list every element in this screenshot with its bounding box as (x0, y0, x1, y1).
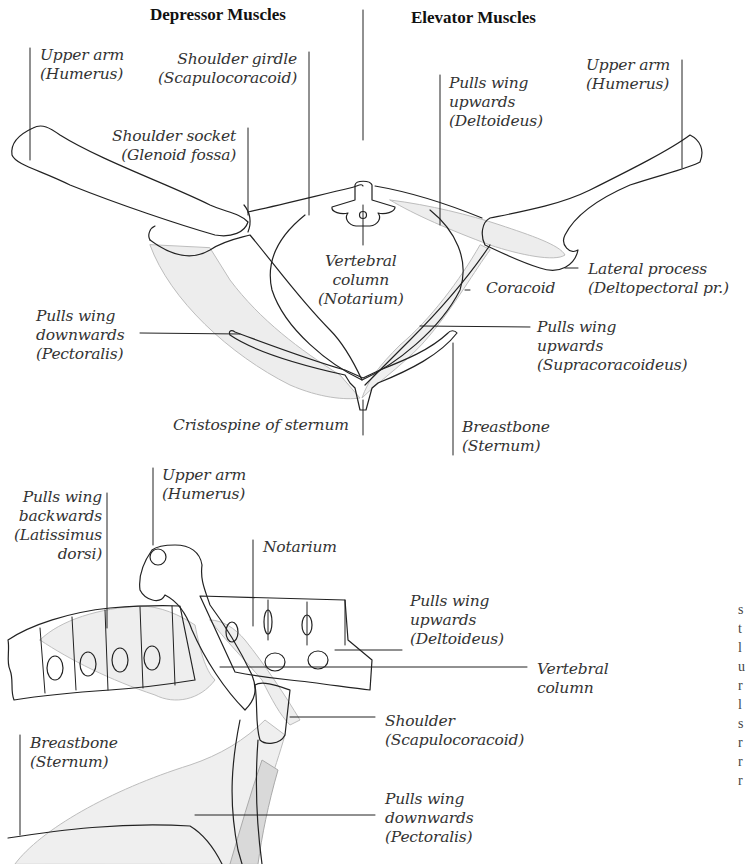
label-pulls-up-supracoracoideus: Pulls wing upwards (Supracoracoideus) (537, 318, 687, 375)
label-pulls-down-pectoralis: Pulls wing downwards (Pectoralis) (36, 307, 125, 364)
header-depressor-muscles: Depressor Muscles (150, 5, 286, 25)
label-shoulder-socket: Shoulder socket (Glenoid fossa) (112, 127, 236, 165)
glenoid-left (149, 205, 250, 240)
notarium-side (200, 596, 372, 690)
label-breastbone-front: Breastbone (Sternum) (462, 418, 550, 456)
label-vertebral-column-side: Vertebral column (537, 660, 609, 698)
deltoideus-muscle-side (210, 620, 300, 725)
label-upper-arm-right: Upper arm (Humerus) (586, 56, 670, 94)
label-lateral-process: Lateral process (Deltopectoral pr.) (588, 260, 729, 298)
label-pulls-up-deltoideus: Pulls wing upwards (Deltoideus) (449, 74, 543, 131)
humeral-head (150, 549, 166, 565)
header-elevator-muscles: Elevator Muscles (411, 8, 536, 28)
label-vertebral-column-notarium: Vertebral column (Notarium) (318, 252, 404, 309)
label-upper-arm-left: Upper arm (Humerus) (40, 46, 124, 84)
label-pulls-back-latissimus: Pulls wing backwards (Latissimus dorsi) (14, 488, 102, 564)
notarium-joints (268, 600, 345, 645)
label-breastbone-side: Breastbone (Sternum) (30, 734, 118, 772)
label-notarium: Notarium (263, 538, 337, 557)
latissimus-muscle (40, 606, 215, 700)
cropped-edge-text: stlurlsrrr (738, 600, 747, 864)
label-shoulder-scapulocoracoid: Shoulder (Scapulocoracoid) (385, 712, 524, 750)
label-pulls-down-pectoralis-side: Pulls wing downwards (Pectoralis) (385, 790, 474, 847)
label-shoulder-girdle: Shoulder girdle (Scapulocoracoid) (158, 50, 297, 88)
label-upper-arm-side: Upper arm (Humerus) (162, 466, 246, 504)
label-pulls-up-deltoideus-side: Pulls wing upwards (Deltoideus) (410, 592, 504, 649)
label-cristospine: Cristospine of sternum (173, 416, 349, 435)
label-coracoid: Coracoid (486, 279, 555, 298)
